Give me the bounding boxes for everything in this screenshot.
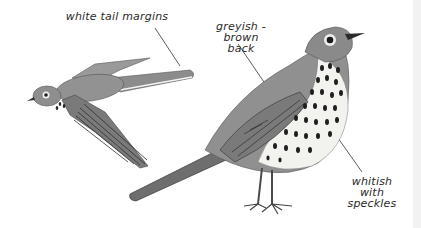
label-back-line1: greyish - brown (200, 21, 282, 43)
standing-bird (130, 27, 365, 214)
label-breast-line1: whitish with (338, 176, 406, 198)
label-breast-line2: speckles (338, 198, 406, 209)
label-greyish-brown-back: greyish - brown back (200, 21, 282, 54)
label-white-tail-margins: white tail margins (62, 11, 172, 22)
flying-bird (27, 58, 194, 168)
tail-leader-line (155, 28, 180, 66)
label-back-line2: back (200, 43, 282, 54)
label-whitish-with-speckles: whitish with speckles (338, 176, 406, 209)
